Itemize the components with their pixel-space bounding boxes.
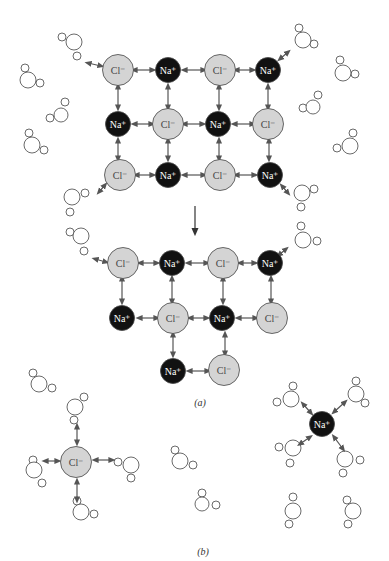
oxygen-atom — [20, 72, 36, 88]
water-molecule — [295, 24, 318, 48]
ion-label: Cl⁻ — [161, 119, 175, 130]
hydrogen-atom — [310, 185, 318, 193]
ion-label: Cl⁻ — [113, 170, 127, 181]
diagram-canvas: Cl⁻Na⁺Cl⁻Na⁺Na⁺Cl⁻Na⁺Cl⁻Cl⁻Na⁺Cl⁻Na⁺Cl⁻N… — [0, 0, 389, 561]
hydrogen-atom — [343, 496, 351, 504]
ion-label: Na⁺ — [164, 258, 181, 269]
hydrogen-atom — [297, 222, 305, 230]
water-molecule — [26, 456, 46, 487]
attraction-arrow — [300, 437, 310, 444]
water-molecule — [294, 185, 318, 211]
hydrogen-atom — [38, 479, 46, 487]
ion-label: Na⁺ — [165, 366, 182, 377]
water-molecule — [20, 64, 44, 88]
hydrogen-atom — [356, 456, 364, 464]
ion-label: Na⁺ — [160, 65, 177, 76]
oxygen-atom — [295, 32, 311, 48]
hydrogen-atom — [29, 369, 37, 377]
hydrogen-atom — [73, 52, 81, 60]
hydrogen-atom — [70, 416, 78, 424]
chloride-ion: Cl⁻ — [158, 303, 189, 334]
sodium-ion: Na⁺ — [310, 412, 335, 437]
hydrogen-atom — [90, 510, 98, 518]
hydrogen-atom — [313, 237, 321, 245]
hydrogen-atom — [289, 382, 297, 390]
sodium-ion: Na⁺ — [160, 251, 185, 276]
chloride-ion: Cl⁻ — [209, 355, 240, 386]
chloride-ion: Cl⁻ — [105, 160, 136, 191]
attraction-arrow — [303, 404, 311, 413]
water-molecule — [58, 33, 82, 60]
water-molecule — [67, 393, 88, 424]
oxygen-atom — [66, 34, 82, 50]
oxygen-atom — [195, 497, 209, 511]
hydrogen-atom — [40, 146, 48, 154]
water-molecule — [29, 369, 56, 392]
oxygen-atom — [348, 386, 364, 402]
ion-label: Na⁺ — [214, 313, 231, 324]
hydrogen-atom — [361, 399, 369, 407]
ion-label: Na⁺ — [262, 170, 279, 181]
hydrogen-atom — [351, 70, 359, 78]
chloride-ion: Cl⁻ — [61, 447, 92, 478]
hydrogen-atom — [80, 393, 88, 401]
water-molecule — [24, 129, 48, 154]
chloride-ion: Cl⁻ — [253, 109, 284, 140]
attraction-arrow — [88, 63, 101, 66]
ion-label: Na⁺ — [114, 313, 131, 324]
attraction-arrow — [95, 259, 106, 262]
sodium-ion: Na⁺ — [210, 306, 235, 331]
oxygen-atom — [345, 503, 361, 519]
hydrogen-atom — [66, 208, 74, 216]
hydrogen-atom — [339, 469, 347, 477]
chloride-ion: Cl⁻ — [108, 248, 139, 279]
hydrogen-atom — [198, 489, 206, 497]
hydrogen-atom — [36, 79, 44, 87]
ion-label: Na⁺ — [314, 419, 331, 430]
oxygen-atom — [337, 451, 353, 467]
figure-nacl-dissolution: Cl⁻Na⁺Cl⁻Na⁺Na⁺Cl⁻Na⁺Cl⁻Cl⁻Na⁺Cl⁻Na⁺Cl⁻N… — [0, 0, 389, 561]
chloride-ion: Cl⁻ — [257, 303, 288, 334]
oxygen-atom — [172, 453, 188, 469]
caption-b: (b) — [197, 546, 209, 558]
oxygen-atom — [24, 137, 40, 153]
chloride-ion: Cl⁻ — [208, 248, 239, 279]
ion-label: Cl⁻ — [261, 119, 275, 130]
hydrogen-atom — [189, 461, 197, 469]
hydrogen-atom — [80, 247, 88, 255]
hydrogen-atom — [275, 443, 283, 451]
hydrogen-atom — [286, 459, 294, 467]
ion-label: Na⁺ — [110, 119, 127, 130]
hydrogen-atom — [352, 377, 360, 385]
water-molecule — [273, 382, 299, 407]
hydrogen-atom — [349, 129, 357, 137]
hydrogen-atom — [333, 144, 341, 152]
water-molecule — [348, 377, 369, 407]
sodium-ion: Na⁺ — [110, 306, 135, 331]
sodium-ion: Na⁺ — [258, 251, 283, 276]
sodium-ion: Na⁺ — [256, 58, 281, 83]
hydrogen-atom — [114, 458, 122, 466]
hydrogen-atom — [336, 56, 344, 64]
hydrogen-atom — [212, 501, 220, 509]
water-molecule — [285, 493, 301, 528]
attraction-arrow — [280, 52, 288, 59]
chloride-ion: Cl⁻ — [103, 55, 134, 86]
sodium-ion: Na⁺ — [156, 163, 181, 188]
oxygen-atom — [73, 504, 89, 520]
oxygen-atom — [73, 228, 89, 244]
sodium-ion: Na⁺ — [161, 359, 186, 384]
hydrogen-atom — [127, 474, 135, 482]
ion-label: Cl⁻ — [116, 258, 130, 269]
oxygen-atom — [67, 399, 83, 415]
attraction-arrow — [279, 249, 286, 255]
water-molecule — [171, 446, 197, 469]
ion-label: Na⁺ — [210, 119, 227, 130]
water-molecule — [195, 489, 220, 511]
water-molecule — [343, 496, 361, 528]
hydrogen-atom — [285, 520, 293, 528]
ion-label: Na⁺ — [260, 65, 277, 76]
oxygen-atom — [54, 108, 68, 122]
chloride-ion: Cl⁻ — [205, 160, 236, 191]
oxygen-atom — [342, 138, 358, 154]
